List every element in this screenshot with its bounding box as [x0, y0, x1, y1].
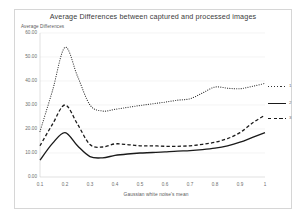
x-tick-label: 0.2 [57, 182, 73, 187]
series-paths [40, 47, 265, 160]
y-tick-label: 20.00 [15, 126, 37, 131]
series-line-1 [40, 47, 265, 131]
y-tick-label: 60.00 [15, 30, 37, 35]
x-tick-label: 0.6 [157, 182, 173, 187]
x-tick-label: 0.4 [107, 182, 123, 187]
x-tick-label: 0.5 [132, 182, 148, 187]
x-tick-label: 0.3 [82, 182, 98, 187]
x-tick-label: 0.9 [232, 182, 248, 187]
y-tick-label: 40.00 [15, 78, 37, 83]
legend-label-1: 1 [289, 83, 291, 88]
x-tick-label: 1 [257, 182, 273, 187]
y-tick-label: 50.00 [15, 54, 37, 59]
y-tick-label: 30.00 [15, 102, 37, 107]
legend-label-3: 3 [289, 115, 291, 120]
y-tick-label: 0.00 [15, 174, 37, 179]
x-tick-label: 0.8 [207, 182, 223, 187]
legend-key-1 [268, 86, 286, 87]
chart-container: Average Differences between captured and… [0, 0, 306, 219]
x-tick-label: 0.1 [32, 182, 48, 187]
legend-item-3[interactable]: 3 [268, 114, 302, 124]
x-tick-label: 0.7 [182, 182, 198, 187]
legend-key-3 [268, 118, 286, 119]
gridlines [40, 33, 265, 177]
y-tick-label: 10.00 [15, 150, 37, 155]
legend-item-1[interactable]: 1 [268, 82, 302, 92]
legend-label-2: 2 [289, 100, 291, 105]
legend-item-2[interactable]: 2 [268, 99, 302, 109]
legend-key-2 [268, 103, 286, 104]
x-axis-title: Gaussian white noise's mean [46, 192, 266, 197]
